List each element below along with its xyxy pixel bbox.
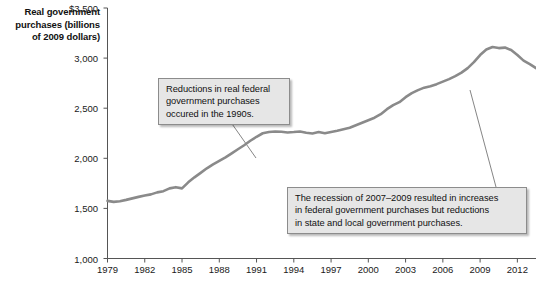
- x-axis-tick-label: 2009: [470, 264, 491, 275]
- x-axis-tick-label: 1991: [246, 264, 267, 275]
- callout-1990s-line-2: government purchases: [166, 95, 283, 107]
- x-axis-tick-label: 2000: [358, 264, 379, 275]
- callout-1990s-line-1: Reductions in real federal: [166, 83, 283, 95]
- x-axis-tick-label: 2012: [507, 264, 528, 275]
- annotation-leader-line: [470, 90, 496, 187]
- x-axis-tick-label: 1985: [171, 264, 192, 275]
- y-axis-tick-label: 2,500: [38, 103, 98, 114]
- x-axis-tick-label: 1979: [97, 264, 118, 275]
- annotation-callout-1990s: Reductions in real federal government pu…: [158, 78, 290, 125]
- y-axis-tick-label: 2,000: [38, 153, 98, 164]
- x-axis-tick-label: 1982: [134, 264, 155, 275]
- annotation-callout-recession: The recession of 2007–2009 resulted in i…: [287, 187, 527, 234]
- y-axis-ticks: [104, 8, 108, 259]
- y-axis-tick-label: 3,000: [38, 53, 98, 64]
- x-axis-tick-label: 1994: [283, 264, 304, 275]
- x-axis-tick-label: 1997: [320, 264, 341, 275]
- y-axis-tick-label: $3,500: [38, 3, 98, 14]
- callout-1990s-line-3: occured in the 1990s.: [166, 108, 283, 120]
- callout-recession-line-2: in federal government purchases but redu…: [295, 204, 520, 216]
- y-axis-tick-label: 1,000: [38, 253, 98, 264]
- x-axis-tick-label: 2003: [395, 264, 416, 275]
- y-axis-tick-label: 1,500: [38, 203, 98, 214]
- callout-recession-line-3: in state and local government purchases.: [295, 217, 520, 229]
- x-axis-ticks: [108, 259, 518, 263]
- line-chart-plot: [0, 0, 536, 287]
- figure-container: Real government purchases (billions of 2…: [0, 0, 536, 287]
- x-axis-tick-label: 1988: [209, 264, 230, 275]
- callout-recession-line-1: The recession of 2007–2009 resulted in i…: [295, 192, 520, 204]
- x-axis-tick-label: 2006: [432, 264, 453, 275]
